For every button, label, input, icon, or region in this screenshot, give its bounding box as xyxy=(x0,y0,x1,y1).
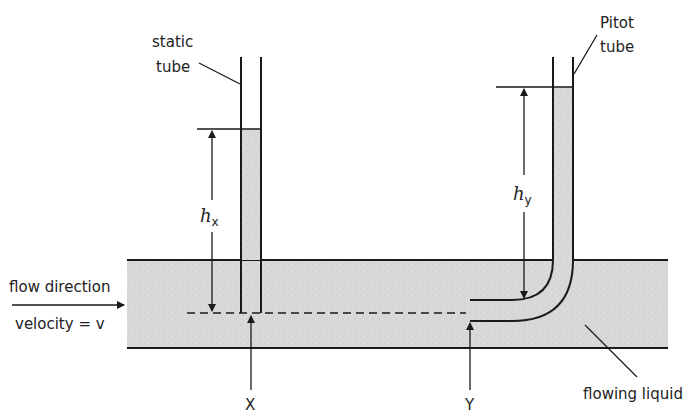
flow-direction-label: flow direction xyxy=(9,278,110,296)
static-tube-label-line2: tube xyxy=(156,58,190,76)
static-tube-label-line1: static xyxy=(152,33,193,51)
hx-label: hx xyxy=(200,205,219,229)
flowing-liquid-label: flowing liquid xyxy=(583,385,683,403)
static-tube-liquid-column xyxy=(241,129,261,260)
pitot-tube-label-line2: tube xyxy=(600,38,634,56)
pitot-static-diagram: hx hy static tube Pitot tube flow direct… xyxy=(0,0,697,420)
pipe xyxy=(127,260,668,348)
pitot-tube-label-line1: Pitot xyxy=(600,14,634,32)
hy-label: hy xyxy=(513,183,532,207)
point-x-label: X xyxy=(245,396,255,414)
pitot-tube-pointer xyxy=(574,35,597,74)
flowing-liquid-region xyxy=(127,260,668,348)
velocity-label: velocity = v xyxy=(15,315,105,333)
point-y-label: Y xyxy=(464,396,475,414)
static-tube-pointer xyxy=(199,63,240,84)
